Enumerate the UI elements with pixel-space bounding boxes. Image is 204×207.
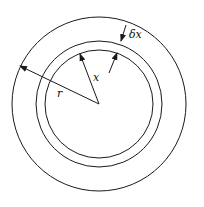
label-r: r — [57, 87, 63, 100]
shell-thickness-arrow-outer — [121, 25, 126, 41]
label-delta-x: δx — [129, 28, 143, 41]
concentric-circles-diagram: r x δx — [0, 0, 204, 207]
label-x: x — [93, 71, 100, 84]
shell-thickness-arrow-inner — [109, 53, 117, 73]
